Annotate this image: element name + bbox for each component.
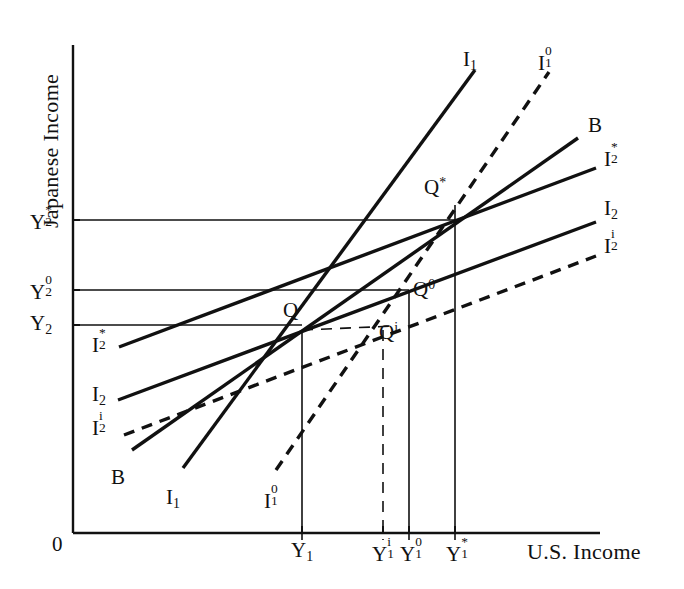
curve-line-B (132, 138, 578, 450)
x-tick-label-y1: Y1 (291, 540, 313, 561)
curve-base: I (463, 47, 470, 71)
y-tick-label-y2-star: Y*2 (30, 208, 56, 233)
point-base: Q (283, 298, 298, 322)
curve-script: *2 (99, 331, 110, 352)
point-base: Q (379, 320, 394, 344)
x-tick-base: Y (291, 538, 306, 562)
curve-sub: 2 (611, 207, 618, 222)
curve-script: 01 (545, 49, 556, 70)
curve-sub: 1 (173, 496, 180, 511)
curve-base: I (92, 382, 99, 406)
axes-group (73, 45, 600, 533)
curve-label-b-right: B (588, 115, 602, 136)
x-tick-label-y1-star: Y*1 (446, 540, 472, 565)
curve-label-i1-top: I1 (463, 49, 477, 70)
curve-line-I2 (118, 222, 596, 400)
curve-script: *2 (611, 145, 622, 166)
curve-line-I2_i (124, 256, 596, 435)
x-tick-base: Y (446, 542, 461, 566)
x-tick-script: i1 (387, 540, 398, 561)
x-tick-label-y1-i: Yi1 (372, 540, 398, 565)
curve-base: I (604, 234, 611, 258)
curve-label-i2-star-left: I*2 (92, 331, 110, 356)
curve-base: B (111, 465, 125, 489)
point-base: Q (424, 175, 439, 199)
economics-diagram: Japanese Income U.S. Income 0 Y*2 Y02 Y2… (0, 0, 684, 589)
curve-base: I (538, 51, 545, 75)
y-tick-base: Y (30, 280, 45, 304)
point-label-q-i: Qi (379, 322, 398, 343)
point-sup: i (394, 320, 398, 335)
point-label-q: Q (283, 300, 298, 321)
curve-label-i1-zero-bottom: I01 (264, 487, 282, 512)
curve-lines-group (118, 70, 596, 470)
x-tick-script: 01 (415, 540, 426, 561)
origin-label: 0 (52, 534, 63, 555)
curve-base: I (604, 196, 611, 220)
point-label-q-star: Q* (424, 177, 446, 198)
x-tick-script: *1 (461, 540, 472, 561)
curve-base: I (264, 489, 271, 513)
x-tick-sub: 1 (306, 549, 313, 564)
point-sup: * (439, 175, 446, 190)
y-tick-base: Y (30, 311, 45, 335)
curve-script: i2 (99, 414, 110, 435)
point-label-q-zero: Q0 (413, 279, 435, 300)
curve-label-i1-zero-top: I01 (538, 49, 556, 74)
curve-label-i2-right: I2 (604, 198, 618, 219)
curve-script: 01 (271, 487, 282, 508)
curve-line-I2_star (119, 168, 596, 347)
curve-label-i2-i-left: Ii2 (92, 414, 110, 439)
curve-label-i2-i-right: Ii2 (604, 232, 622, 257)
curve-sub: 1 (470, 58, 477, 73)
x-tick-label-y1-zero: Y01 (400, 540, 426, 565)
y-tick-label-y2-zero: Y02 (30, 278, 56, 303)
curve-base: I (166, 485, 173, 509)
curve-sub: 2 (99, 393, 106, 408)
curve-label-i1-bottom: I1 (166, 487, 180, 508)
curve-label-i2-left: I2 (92, 384, 106, 405)
curve-base: I (92, 416, 99, 440)
y-tick-label-y2: Y2 (30, 313, 52, 334)
curve-base: I (92, 333, 99, 357)
curve-base: I (604, 147, 611, 171)
curve-label-b-left: B (111, 467, 125, 488)
y-tick-script: *2 (45, 208, 56, 229)
y-tick-base: Y (30, 210, 45, 234)
x-axis-title: U.S. Income (527, 541, 641, 563)
curve-label-i2-star-right: I*2 (604, 145, 622, 170)
curve-script: i2 (611, 232, 622, 253)
x-tick-base: Y (400, 542, 415, 566)
x-tick-base: Y (372, 542, 387, 566)
point-base: Q (413, 277, 428, 301)
diagram-canvas (0, 0, 684, 589)
point-sup: 0 (428, 277, 435, 292)
y-tick-script: 02 (45, 278, 56, 299)
y-tick-sub: 2 (45, 322, 52, 337)
curve-base: B (588, 113, 602, 137)
